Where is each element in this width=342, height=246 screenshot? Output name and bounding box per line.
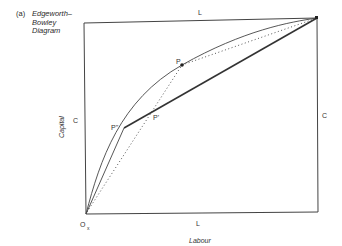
box-bottom-edge: [86, 212, 318, 214]
corner-marker: [315, 16, 318, 19]
edgeworth-box: [84, 18, 318, 214]
label-bottom-l: L: [196, 220, 200, 227]
thick-line: [124, 18, 317, 128]
label-top-l: L: [198, 9, 202, 16]
box-top-edge: [84, 18, 317, 23]
box-right-edge: [317, 18, 318, 212]
y-axis-label: Capital: [58, 116, 66, 138]
point-p-marker: [180, 63, 184, 67]
dotted-path: [87, 18, 317, 212]
label-p-prime: P': [153, 114, 159, 121]
x-axis-label: Labour: [189, 237, 211, 244]
label-right-c: C: [322, 112, 327, 119]
label-left-c: C: [73, 117, 78, 124]
label-p-double-prime: P'': [111, 124, 118, 131]
edgeworth-box-diagram: P P' P'' L L C C O x Labour Capital: [0, 0, 342, 246]
label-origin: O: [80, 221, 86, 228]
contract-curve: [86, 18, 317, 214]
box-left-edge: [84, 23, 86, 214]
label-origin-subscript: x: [87, 225, 90, 231]
origin-to-p-double-prime-line: [86, 128, 124, 214]
label-p: P: [176, 58, 181, 65]
